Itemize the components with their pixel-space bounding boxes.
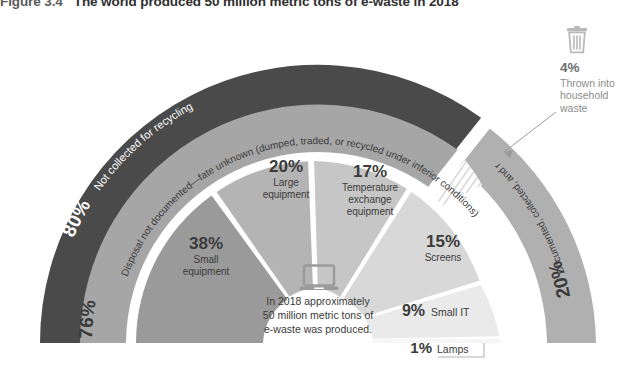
lamps-label: Lamps: [437, 343, 469, 355]
segment-label-screens: 15% Screens: [425, 232, 462, 263]
svg-text:17%: 17%: [353, 162, 387, 181]
center-summary-text: In 2018 approximately 50 million metric …: [218, 294, 418, 336]
household-waste-pct: 4%: [560, 62, 634, 75]
svg-text:Temperature: Temperature: [342, 182, 399, 193]
center-line-1: In 2018 approximately: [266, 295, 369, 307]
household-waste-line1: Thrown into: [560, 77, 615, 89]
svg-text:exchange: exchange: [348, 194, 392, 205]
svg-text:20%: 20%: [269, 157, 303, 176]
svg-text:equipment: equipment: [347, 206, 394, 217]
trash-can-icon: [565, 26, 589, 54]
svg-text:Screens: Screens: [425, 252, 462, 263]
svg-text:equipment: equipment: [183, 266, 230, 277]
svg-text:38%: 38%: [189, 234, 223, 253]
center-line-2: 50 million metric tons of: [263, 309, 373, 321]
household-waste-line2: household: [560, 89, 608, 101]
household-waste-callout: 4% Thrown into household waste: [560, 62, 634, 114]
svg-text:equipment: equipment: [263, 189, 310, 200]
household-waste-line3: waste: [560, 102, 587, 114]
center-line-3: e-waste was produced.: [264, 323, 372, 335]
svg-text:Small: Small: [193, 254, 218, 265]
laptop-icon: [299, 264, 339, 292]
svg-text:Large: Large: [273, 177, 299, 188]
household-waste-leader-line: [504, 112, 556, 158]
lamps-pct: 1%: [410, 339, 432, 356]
middle-ring-pct-76: 76%: [75, 298, 100, 339]
svg-text:15%: 15%: [426, 232, 460, 251]
svg-text:Small IT: Small IT: [431, 306, 470, 318]
